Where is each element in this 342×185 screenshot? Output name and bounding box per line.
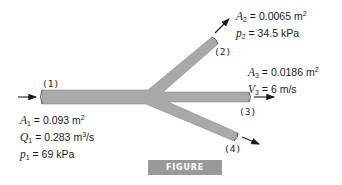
flowrate-1: Q1 = 0.283 m3/s <box>20 129 94 146</box>
section-2-annotations: A2 = 0.0065 m2 p2 = 34.5 kPa <box>236 8 307 42</box>
section-1-annotations: A1 = 0.093 m2 Q1 = 0.283 m3/s p1 = 69 kP… <box>20 112 94 163</box>
flow-arrow-out-4 <box>242 137 259 144</box>
area-1: A1 = 0.093 m2 <box>20 112 94 129</box>
section-label-2: (2) <box>214 46 231 57</box>
section-label-1: (1) <box>42 78 59 89</box>
pressure-1: p1 = 69 kPa <box>20 146 94 163</box>
figure-caption: FIGURE P4.6.81 <box>148 160 222 175</box>
pressure-2: p2 = 34.5 kPa <box>236 25 307 42</box>
flow-arrow-out-2 <box>215 19 229 33</box>
area-2: A2 = 0.0065 m2 <box>236 8 307 25</box>
area-3: A3 = 0.0186 m2 <box>248 64 319 81</box>
section-3-annotations: A3 = 0.0186 m2 V3 = 6 m/s <box>248 64 319 98</box>
velocity-3: V3 = 6 m/s <box>248 81 319 98</box>
section-label-4: (4) <box>224 143 241 154</box>
section-label-3: (3) <box>239 106 256 117</box>
